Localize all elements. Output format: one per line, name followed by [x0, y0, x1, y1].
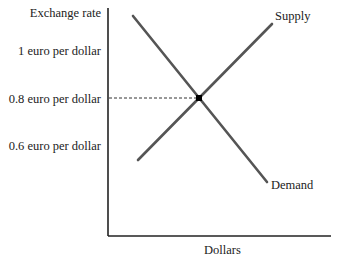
exchange-rate-chart: Exchange rate 1 euro per dollar 0.8 euro…: [0, 0, 345, 265]
y-tick-0-6-euro: 0.6 euro per dollar: [9, 139, 101, 153]
x-axis-title: Dollars: [204, 243, 241, 257]
y-axis-title: Exchange rate: [30, 6, 101, 20]
y-tick-1-euro: 1 euro per dollar: [18, 44, 101, 58]
supply-curve: [138, 24, 272, 160]
supply-label: Supply: [275, 9, 310, 23]
equilibrium-point: [196, 95, 202, 101]
demand-label: Demand: [271, 178, 313, 192]
chart-canvas: [0, 0, 345, 265]
y-tick-0-8-euro: 0.8 euro per dollar: [9, 92, 101, 106]
